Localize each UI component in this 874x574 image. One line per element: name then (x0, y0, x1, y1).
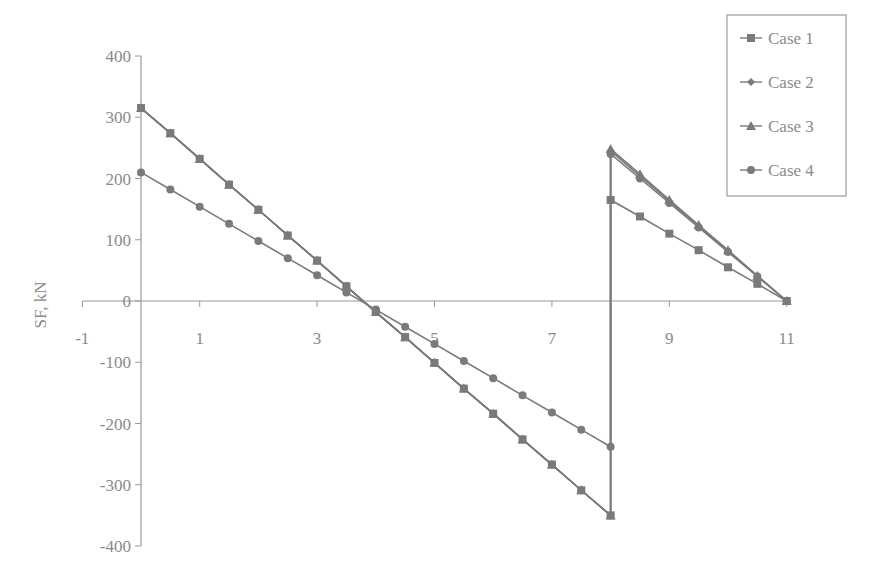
y-tick-label: 100 (106, 231, 132, 250)
data-series (136, 103, 792, 519)
shear-force-chart: 4003002001000-100-200-300-400-11357911 S… (0, 0, 874, 574)
y-tick-label: -300 (100, 476, 131, 495)
legend: Case 1Case 2Case 3Case 4 (727, 15, 846, 196)
series-case-3 (136, 103, 792, 519)
x-tick-label: 7 (548, 329, 557, 348)
axes: 4003002001000-100-200-300-400-11357911 (75, 47, 795, 556)
x-tick-label: 1 (195, 329, 204, 348)
y-tick-label: -100 (100, 353, 131, 372)
legend-label: Case 2 (768, 73, 814, 92)
y-axis-label: SF, kN (31, 282, 50, 329)
x-tick-label: 9 (665, 329, 674, 348)
x-tick-label: 11 (779, 329, 795, 348)
y-tick-label: 300 (106, 108, 132, 127)
x-tick-label: -1 (75, 329, 89, 348)
y-tick-label: -200 (100, 415, 131, 434)
series-case-4 (137, 150, 791, 451)
legend-label: Case 3 (768, 117, 814, 136)
x-tick-label: 3 (313, 329, 322, 348)
y-tick-label: 0 (123, 292, 132, 311)
series-case-2 (137, 104, 791, 519)
legend-label: Case 4 (768, 161, 814, 180)
y-tick-label: 400 (106, 47, 132, 66)
y-tick-label: 200 (106, 170, 132, 189)
series-case-1 (137, 104, 791, 519)
legend-label: Case 1 (768, 29, 814, 48)
y-tick-label: -400 (100, 537, 131, 556)
